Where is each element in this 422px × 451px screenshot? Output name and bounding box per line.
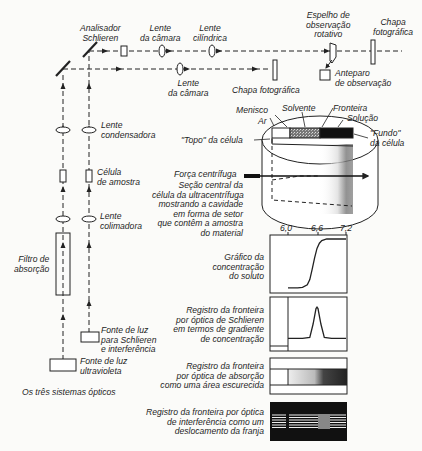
- solvent-region: [290, 128, 320, 138]
- label-topo: "Topo" da célula: [181, 136, 243, 146]
- label-lente-colimadora: Lentecolimadora: [100, 212, 142, 231]
- label-forca: Força centrífuga: [174, 170, 237, 180]
- sample-cell-left-icon: [60, 170, 66, 182]
- darkened-area: [288, 369, 347, 385]
- absorption-graph: [270, 358, 347, 394]
- label-concentracao: Gráfico daconcentraçãodo soluto: [190, 253, 264, 282]
- collimator-lens-right-icon: [82, 216, 96, 222]
- cylindrical-lens-icon: [209, 45, 215, 57]
- label-analisador: AnalisadorSchlieren: [80, 24, 121, 43]
- label-solucao: Solução: [347, 114, 378, 124]
- tick-label-6-0: 6,0: [280, 224, 292, 234]
- tick-label-6-6: 6,6: [311, 224, 323, 234]
- centrifugal-force-bar: [244, 174, 260, 178]
- ultracentrifuge-cell: [262, 116, 378, 229]
- upper-mirror-icon: [83, 42, 97, 57]
- label-absorcao-record: Registro da fronteirapor óptica de absor…: [150, 362, 264, 391]
- schlieren-graph: [270, 297, 347, 351]
- label-chapa-bottom: Chapa fotográfica: [232, 86, 300, 96]
- schlieren-light-source-icon: [81, 332, 99, 342]
- camera-lens-top-icon: [159, 45, 165, 57]
- fringe-shift-zone: [318, 414, 330, 429]
- label-schlieren-record: Registro da fronteirapor óptica de Schli…: [160, 306, 264, 344]
- label-fonte-uv: Fonte de luzultravioleta: [80, 357, 127, 376]
- label-secao: Seção central dacélula da ultracentrífug…: [152, 181, 243, 239]
- schlieren-analyzer-icon: [121, 46, 127, 56]
- air-region: [272, 128, 290, 138]
- label-lente-camara-top: Lenteda câmara: [140, 24, 181, 43]
- tick-label-7-2: 7,2: [340, 224, 352, 234]
- label-espelho: Espelho deobservaçãorotativo: [306, 11, 350, 40]
- figure-caption: Os três sistemas ópticos: [22, 388, 116, 398]
- label-interferencia-record: Registro da fronteira por ópticade inter…: [120, 408, 264, 437]
- label-solvente: Solvente: [282, 104, 315, 114]
- label-celula-amostra: Célulade amostra: [97, 168, 140, 187]
- label-filtro: Filtro deabsorção: [14, 255, 49, 274]
- label-lente-condensadora: Lentecondensadora: [101, 121, 155, 140]
- camera-lens-bottom-icon: [177, 63, 183, 75]
- observation-screen-icon: [320, 70, 330, 80]
- bottom-photo-plate-icon: [273, 60, 277, 80]
- condenser-lens-right-icon: [82, 127, 96, 133]
- label-lente-camara-bottom: Lenteda câmara: [168, 79, 209, 98]
- sample-cell-right-icon: [86, 170, 92, 182]
- top-photo-plate-icon: [371, 40, 375, 64]
- uv-light-source-icon: [50, 359, 76, 371]
- label-fonte-schlieren: Fonte de luzpara Schlierene interferênci…: [101, 326, 156, 355]
- solution-region: [320, 128, 353, 138]
- interference-graph: [270, 402, 347, 441]
- label-menisco: Menisco: [236, 106, 268, 116]
- label-lente-cilindrica: Lentecilíndrica: [193, 24, 227, 43]
- label-anteparo: Anteparode observação: [335, 69, 391, 88]
- label-chapa-top: Chapafotográfica: [373, 18, 413, 37]
- rotating-mirror-icon: [330, 43, 336, 63]
- mirror-to-screen-arrow: [326, 60, 332, 68]
- collimator-lens-left-icon: [56, 216, 70, 222]
- concentration-graph: [270, 232, 347, 293]
- label-ar: Ar: [258, 117, 267, 127]
- condenser-lens-left-icon: [56, 127, 70, 133]
- label-fundo: "Fundo"da célula: [370, 129, 404, 148]
